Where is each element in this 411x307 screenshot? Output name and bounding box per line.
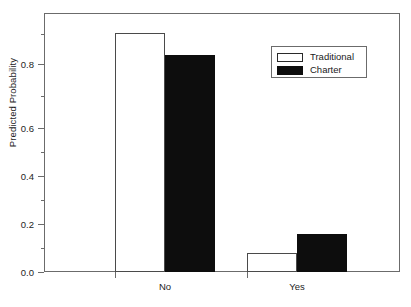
legend-swatch-traditional-icon (277, 53, 303, 62)
legend: Traditional Charter (271, 46, 367, 78)
x-tick-label-yes: Yes (267, 281, 327, 292)
bar-yes-traditional (247, 253, 297, 272)
x-tick-label-no: No (135, 281, 195, 292)
bar-no-traditional (115, 33, 165, 272)
y-axis-title: Predicted Probability (7, 33, 18, 173)
legend-swatch-charter-icon (277, 66, 303, 75)
y-tick-label-2: 0.4 (0, 171, 34, 182)
bar-yes-charter (297, 234, 347, 272)
y-tick-label-0: 0.0 (0, 267, 34, 278)
y-tick-label-3: 0.6 (0, 123, 34, 134)
predicted-probability-bar-chart: Predicted Probability 0.0 0.2 0.4 0.6 0.… (0, 0, 411, 307)
legend-label-traditional: Traditional (310, 52, 354, 62)
x-tick-0 (115, 272, 116, 278)
legend-entry-charter: Charter (277, 64, 342, 76)
legend-entry-traditional: Traditional (277, 51, 354, 63)
x-tick-1 (247, 272, 248, 278)
y-tick-label-1: 0.2 (0, 219, 34, 230)
legend-label-charter: Charter (310, 65, 342, 75)
bar-no-charter (165, 55, 215, 272)
y-tick-label-4: 0.8 (0, 59, 34, 70)
